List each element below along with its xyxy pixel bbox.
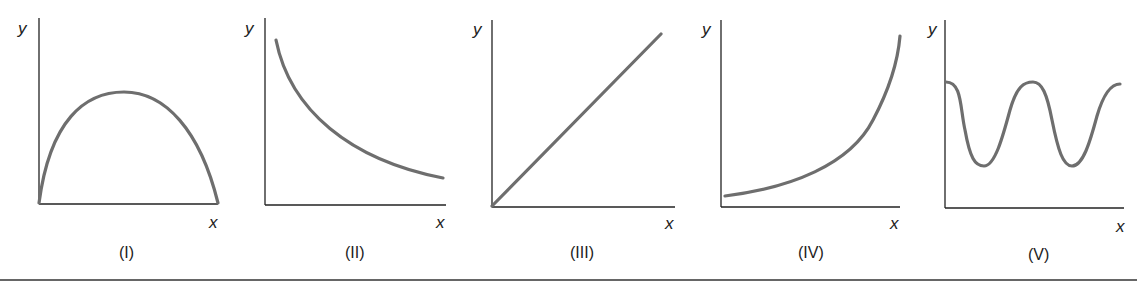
x-axis-label: x (435, 213, 445, 232)
y-axis-label: y (927, 20, 938, 39)
curve-linear (492, 34, 661, 206)
y-axis-label: y (244, 19, 255, 38)
panel-5: y x (V) (927, 20, 1125, 263)
panel-label: (III) (570, 244, 594, 261)
panel-label: (IV) (798, 244, 824, 261)
panel-3: y x (III) (472, 20, 675, 261)
y-axis-label: y (701, 20, 712, 39)
panel-label: (V) (1028, 246, 1049, 263)
graphs-figure: y x (I) y x (II) y x (III) y x (IV) y x … (0, 0, 1137, 282)
panel-1: y x (I) (17, 18, 218, 261)
curve-decreasing (276, 40, 443, 178)
y-axis-label: y (17, 19, 28, 38)
x-axis-label: x (1115, 217, 1125, 236)
curve-exponential (725, 36, 900, 196)
curve-parabola (39, 92, 218, 203)
panel-label: (I) (119, 244, 134, 261)
y-axis-label: y (472, 20, 483, 39)
x-axis-label: x (208, 213, 218, 232)
panel-4: y x (IV) (701, 20, 900, 261)
curve-wave (946, 82, 1120, 166)
panel-label: (II) (345, 244, 365, 261)
x-axis-label: x (664, 214, 674, 233)
x-axis-label: x (889, 214, 899, 233)
panel-2: y x (II) (244, 18, 446, 261)
